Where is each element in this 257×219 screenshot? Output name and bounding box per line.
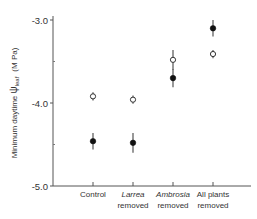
ylabel-unit: (M Pa) [10,47,19,71]
open-circle-marker [170,57,175,62]
chart: -5.0-4.0-3.0 ControlLarrearemovedAmbrosi… [0,0,257,219]
ylabel-symbol: ψ [8,86,19,93]
open-circle-marker [90,94,95,99]
ylabel-prefix: Minimum daytime [10,93,19,158]
filled-circle-marker [130,140,136,146]
x-tick-label-line2: removed [157,201,188,210]
y-ticks: -5.0-4.0-3.0 [32,15,55,192]
x-tick-label-line2: removed [197,201,228,210]
y-tick-label: -4.0 [32,98,48,109]
svg-text:Minimum daytime ψleaf(M Pa): Minimum daytime ψleaf(M Pa) [8,47,20,158]
filled-circle-marker [170,75,176,81]
y-tick-label: -5.0 [32,181,48,192]
x-tick-label: Larrea [121,190,145,199]
y-tick-label: -3.0 [32,15,48,26]
filled-circle-marker [90,138,96,144]
data-points [90,20,216,153]
filled-circle-marker [210,26,216,32]
axes [53,16,251,186]
y-axis-label: Minimum daytime ψleaf(M Pa) [8,47,20,158]
open-circle-marker [130,97,135,102]
x-tick-label: Control [80,190,106,199]
x-tick-label: All plants [197,190,229,199]
open-circle-marker [210,51,215,56]
ylabel-subscript: leaf [14,76,20,86]
x-tick-label-line2: removed [117,201,148,210]
x-tick-label: Ambrosia [155,190,190,199]
